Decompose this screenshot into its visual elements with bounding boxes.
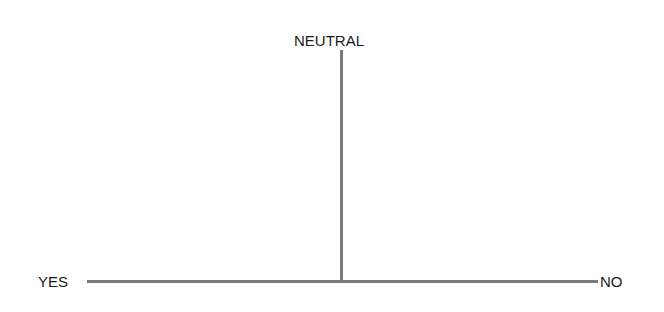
no-label: NO — [600, 274, 623, 289]
horizontal-axis-line — [87, 280, 598, 283]
neutral-label: NEUTRAL — [294, 33, 364, 48]
vertical-axis-line — [340, 50, 343, 282]
yes-label: YES — [38, 274, 68, 289]
